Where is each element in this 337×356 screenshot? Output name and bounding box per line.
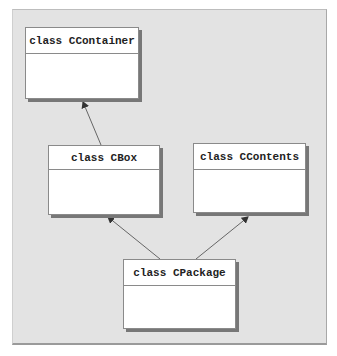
- class-name-ccontainer: class CContainer: [26, 28, 138, 54]
- class-box-ccontainer[interactable]: class CContainer: [25, 27, 139, 99]
- class-box-cbox[interactable]: class CBox: [48, 145, 160, 215]
- class-box-cpackage[interactable]: class CPackage: [123, 259, 236, 329]
- class-box-ccontents[interactable]: class CContents: [193, 143, 306, 213]
- class-name-cpackage: class CPackage: [124, 260, 235, 286]
- class-name-cbox: class CBox: [49, 146, 159, 170]
- class-name-ccontents: class CContents: [194, 144, 305, 170]
